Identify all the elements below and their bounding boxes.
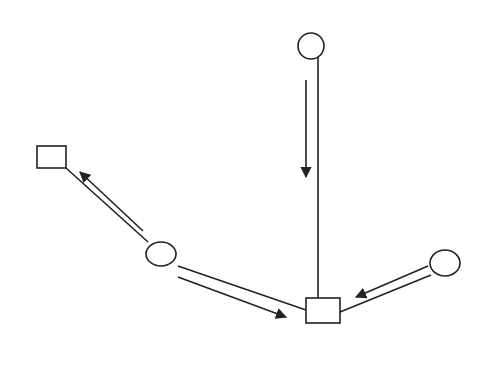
edge-middle-to-bottom-square [178, 266, 306, 310]
edge-right-to-bottom-square [340, 275, 431, 312]
node-square-left [37, 146, 66, 168]
node-circle-middle [146, 242, 176, 266]
flow-diagram [0, 0, 497, 371]
node-square-bottom [306, 298, 340, 323]
arrow-up-left [80, 172, 143, 231]
node-circle-top [298, 33, 324, 59]
edge-middle-to-left-square [66, 168, 148, 242]
arrow-down-left [356, 266, 428, 297]
node-circle-right [430, 250, 460, 276]
